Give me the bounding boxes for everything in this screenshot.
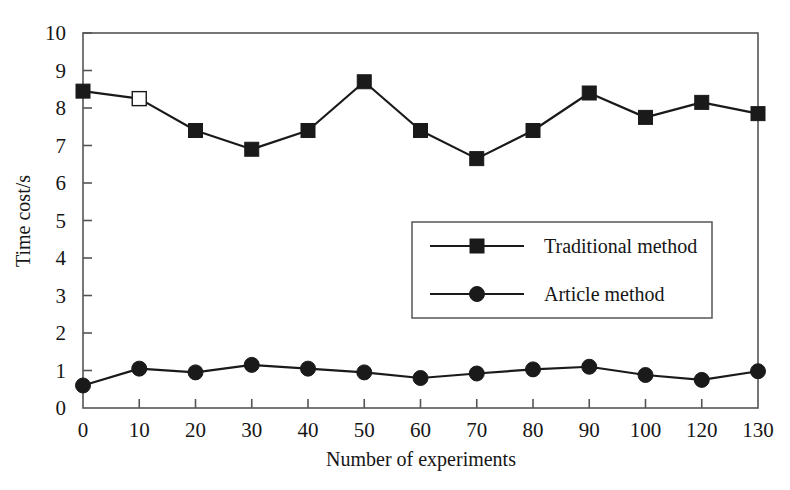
data-point-square [639, 110, 653, 124]
y-axis-tick-label: 5 [56, 209, 67, 233]
line-chart: 012345678910 010203040506070809010012013… [0, 0, 790, 490]
x-axis-tick-label: 90 [579, 418, 600, 442]
chart-legend: Traditional methodArticle method [412, 222, 712, 318]
x-axis-tick-label: 50 [354, 418, 375, 442]
x-axis-tick-label: 80 [523, 418, 544, 442]
data-point-circle [751, 364, 766, 379]
data-point-square [526, 124, 540, 138]
data-point-square [695, 95, 709, 109]
data-point-circle [244, 357, 259, 372]
y-axis-tick-label: 3 [56, 284, 67, 308]
x-axis-tick-label: 20 [185, 418, 206, 442]
x-axis-tick-label: 0 [78, 418, 89, 442]
y-axis-tick-label: 6 [56, 171, 67, 195]
y-axis-tick-label: 4 [56, 246, 67, 270]
x-axis-tick-label: 40 [298, 418, 319, 442]
data-point-square [582, 86, 596, 100]
y-axis-title: Time cost/s [12, 175, 34, 267]
x-axis-tick-label: 120 [686, 418, 718, 442]
data-point-circle [638, 368, 653, 383]
data-point-square [245, 142, 259, 156]
y-axis-tick-label: 2 [56, 321, 67, 345]
y-axis-tick-label: 10 [45, 21, 66, 45]
data-point-circle [470, 287, 485, 302]
data-point-circle [357, 365, 372, 380]
data-point-square [357, 75, 371, 89]
y-axis-tick-label: 9 [56, 59, 67, 83]
x-axis-tick-label: 70 [466, 418, 487, 442]
y-axis-tick-label: 8 [56, 96, 67, 120]
data-point-square [751, 107, 765, 121]
x-axis-tick-label: 60 [410, 418, 431, 442]
data-point-circle [582, 359, 597, 374]
data-point-circle [526, 362, 541, 377]
data-point-circle [694, 372, 709, 387]
data-point-square [189, 124, 203, 138]
x-axis-title: Number of experiments [326, 448, 516, 471]
data-point-square [132, 92, 146, 106]
y-axis-tick-label: 1 [56, 359, 67, 383]
y-axis-tick-label: 7 [56, 134, 67, 158]
data-point-circle [413, 371, 428, 386]
data-point-square [301, 124, 315, 138]
chart-figure: 012345678910 010203040506070809010012013… [0, 0, 790, 490]
x-axis-tick-label: 130 [742, 418, 774, 442]
data-point-square [470, 152, 484, 166]
x-axis-tick-label: 100 [630, 418, 662, 442]
data-point-square [76, 84, 90, 98]
legend-entry-label: Traditional method [544, 235, 697, 257]
y-axis-tick-label: 0 [56, 396, 67, 420]
data-point-circle [76, 378, 91, 393]
x-axis-tick-label: 10 [129, 418, 150, 442]
x-axis-tick-label: 30 [241, 418, 262, 442]
data-point-square [414, 124, 428, 138]
data-point-square [470, 239, 484, 253]
data-point-circle [188, 365, 203, 380]
data-point-circle [132, 361, 147, 376]
data-point-circle [301, 361, 316, 376]
data-point-circle [469, 366, 484, 381]
legend-entry-label: Article method [544, 283, 665, 305]
